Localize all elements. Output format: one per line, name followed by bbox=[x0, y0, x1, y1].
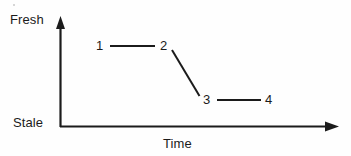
point-label-3: 3 bbox=[203, 93, 210, 107]
x-axis-label: Time bbox=[163, 137, 192, 151]
y-axis-bottom-label: Stale bbox=[13, 116, 43, 130]
point-label-2: 2 bbox=[160, 39, 167, 53]
point-label-1: 1 bbox=[96, 39, 103, 53]
diagram-canvas bbox=[0, 0, 351, 156]
y-axis-top-label: Fresh bbox=[10, 13, 44, 27]
freshness-time-diagram: Fresh Stale Time 1 2 3 4 bbox=[0, 0, 351, 156]
y-axis-arrowhead-icon bbox=[56, 16, 65, 29]
x-axis-arrowhead-icon bbox=[325, 122, 339, 132]
segment-decline-2-3 bbox=[172, 50, 200, 96]
scan-speck bbox=[13, 4, 15, 6]
point-label-4: 4 bbox=[265, 93, 272, 107]
